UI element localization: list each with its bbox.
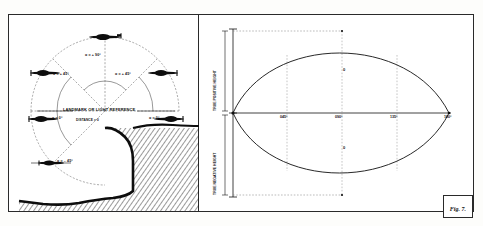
distance-label: DISTANCE = 0 (76, 118, 99, 122)
y-axis-negative-caption: TRUE NEGATIVE HEIGHT (213, 153, 217, 195)
right-vertex-marker (448, 112, 451, 115)
angle-label-left-zero: α = 0° (52, 116, 62, 120)
sightline-plus45-left (53, 59, 105, 111)
x-tick-090: 090° (335, 115, 342, 119)
terrain-profile (19, 125, 199, 211)
angle-arc-plus45-right (139, 77, 153, 111)
upper-center-zero-label: 0 (343, 67, 345, 72)
sightline-plus45-right (105, 59, 157, 111)
angle-label-top: α = + 90° (85, 53, 101, 57)
aircraft-top (89, 33, 121, 40)
peak-negative-marker (341, 194, 343, 196)
angle-arc-90-left (84, 81, 105, 90)
angle-arc-90-right (105, 81, 126, 90)
right-panel: TRUE POSITIVE HEIGHT TRUE NEGATIVE HEIGH… (199, 15, 473, 211)
x-tick-180: 180° (444, 115, 451, 119)
x-tick-045: 045° (280, 115, 287, 119)
lower-center-zero-label: 0 (343, 145, 345, 150)
figure-caption-box: Fig. 7. (443, 195, 473, 218)
right-panel-graphics (199, 15, 473, 211)
left-panel: α = + 90° α = + 45° α = + 45° α = 0° α =… (9, 15, 199, 211)
figure-plate: α = + 90° α = + 45° α = + 45° α = 0° α =… (0, 0, 483, 226)
curve-positive-height (233, 53, 449, 113)
origin-marker (231, 111, 234, 114)
angle-label-right-zero: α = 0° (149, 116, 159, 120)
x-tick-135: 135° (390, 115, 397, 119)
curve-negative-height (233, 113, 449, 173)
angle-label-lower: α = – 45° (57, 159, 73, 163)
angle-label-upper-left: α = + 45° (53, 72, 69, 76)
left-panel-graphics (9, 15, 199, 211)
angle-arc-plus45-left (57, 77, 71, 111)
aircraft-upper-right (148, 70, 178, 76)
landmark-reference-label: LANDMARK OR LIGHT REFERENCE (63, 107, 135, 112)
y-axis-positive-caption: TRUE POSITIVE HEIGHT (213, 70, 217, 111)
angle-label-upper-right: α = + 45° (115, 72, 131, 76)
peak-positive-marker (341, 30, 343, 32)
figure-caption: Fig. 7. (450, 206, 466, 212)
